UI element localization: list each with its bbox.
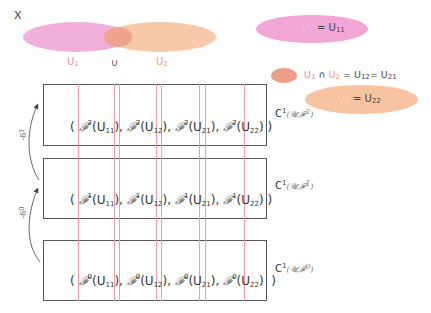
arrow-delta-0 — [29, 190, 40, 262]
row-degree-0: ( 𝓕0(U11), 𝓕0(U12), 𝓕0(U21), 𝓕0(U22) ) — [70, 274, 276, 288]
legend-u22: U2 = U22 — [338, 93, 381, 104]
coboundary-arrows — [0, 0, 60, 313]
delta-1-label: -δ1 — [19, 129, 28, 141]
legend-intersection: U1 ∩ U2 = U12= U21 — [304, 69, 397, 80]
cochain-box-degree-2 — [43, 84, 267, 146]
union-operator: ∪ — [111, 57, 118, 68]
arrow-delta-1 — [29, 106, 39, 180]
legend-ellipse-intersection — [271, 68, 297, 83]
cochain-box-degree-1 — [43, 158, 267, 219]
ellipse-overlap — [104, 27, 132, 47]
u2-label: U2 — [156, 56, 168, 67]
u1-label: U1 — [67, 56, 79, 67]
cochain-label-degree-1: C1(𝓤,𝓕1) — [275, 180, 313, 192]
delta-0-label: -δ0 — [19, 207, 28, 219]
row-degree-1: ( 𝓕1(U11), 𝓕1(U12), 𝓕1(U21), 𝓕1(U22) ) — [70, 193, 272, 207]
cochain-box-degree-0 — [43, 240, 267, 301]
legend-u11: U1 = U11 — [302, 22, 345, 33]
cochain-label-degree-0: C1(𝓤,𝓕0) — [275, 263, 313, 275]
row-degree-2: ( 𝓕2(U11), 𝓕2(U12), 𝓕2(U21), 𝓕2(U22) ) — [70, 120, 272, 134]
cochain-label-degree-2: C1(𝓤,𝓕2) — [275, 108, 313, 120]
